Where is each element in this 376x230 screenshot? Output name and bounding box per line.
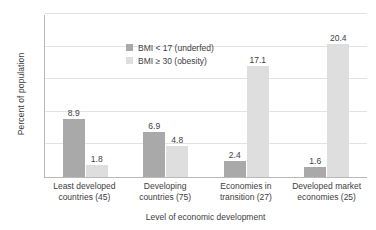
bar-column: 1.8	[86, 15, 108, 177]
category-label-line: Least developed	[44, 181, 125, 192]
bar-value-label: 8.9	[68, 108, 80, 118]
bar-value-label: 17.1	[249, 55, 266, 65]
bar-group: 6.94.8	[126, 15, 207, 177]
x-axis-title: Level of economic development	[44, 212, 367, 222]
category-label-line: Developing	[125, 181, 206, 192]
bar[interactable]	[327, 44, 349, 177]
category-label-line: economies (25)	[286, 192, 367, 203]
y-axis-title: Percent of population	[16, 24, 26, 164]
bar-value-label: 1.8	[91, 154, 103, 164]
bar-column: 17.1	[247, 15, 269, 177]
legend-label: BMI ≥ 30 (obesity)	[138, 56, 207, 66]
bar-column: 1.6	[304, 15, 326, 177]
category-label-line: countries (45)	[44, 192, 125, 203]
legend-item[interactable]: BMI < 17 (underfed)	[126, 41, 214, 54]
category-label-line: Developed market	[286, 181, 367, 192]
category-label: Developingcountries (75)	[125, 181, 206, 211]
bar-column: 4.8	[166, 15, 188, 177]
category-label-line: Economies in	[206, 181, 287, 192]
legend-swatch-icon	[126, 57, 133, 64]
legend-label: BMI < 17 (underfed)	[138, 43, 214, 53]
plot-area: 0510152025 8.91.86.94.82.417.11.620.4 BM…	[44, 15, 367, 178]
category-label: Developed marketeconomies (25)	[286, 181, 367, 211]
chart-legend: BMI < 17 (underfed)BMI ≥ 30 (obesity)	[126, 41, 214, 67]
bar[interactable]	[166, 146, 188, 177]
bar-column: 2.4	[224, 15, 246, 177]
bar[interactable]	[143, 132, 165, 177]
bar[interactable]	[304, 167, 326, 177]
bar-value-label: 20.4	[330, 33, 347, 43]
bar-value-label: 6.9	[148, 121, 160, 131]
x-axis-category-labels: Least developedcountries (45)Developingc…	[44, 181, 367, 211]
category-label: Least developedcountries (45)	[44, 181, 125, 211]
bar[interactable]	[247, 66, 269, 177]
category-label-line: transition (27)	[206, 192, 287, 203]
bar[interactable]	[224, 161, 246, 177]
bar-group: 8.91.8	[45, 15, 126, 177]
bar-column: 20.4	[327, 15, 349, 177]
bmi-by-economic-development-chart: Percent of population 0510152025 8.91.86…	[0, 0, 376, 230]
legend-item[interactable]: BMI ≥ 30 (obesity)	[126, 54, 214, 67]
category-label-line: countries (75)	[125, 192, 206, 203]
category-label: Economies intransition (27)	[206, 181, 287, 211]
gridline	[45, 13, 367, 14]
bar-value-label: 1.6	[309, 156, 321, 166]
bar-value-label: 2.4	[229, 150, 241, 160]
legend-swatch-icon	[126, 44, 133, 51]
bar-column: 6.9	[143, 15, 165, 177]
bar[interactable]	[63, 119, 85, 177]
bar-column: 8.9	[63, 15, 85, 177]
bar[interactable]	[86, 165, 108, 177]
bar-groups: 8.91.86.94.82.417.11.620.4	[45, 15, 367, 177]
bar-group: 1.620.4	[287, 15, 368, 177]
bar-value-label: 4.8	[171, 135, 183, 145]
bar-group: 2.417.1	[206, 15, 287, 177]
